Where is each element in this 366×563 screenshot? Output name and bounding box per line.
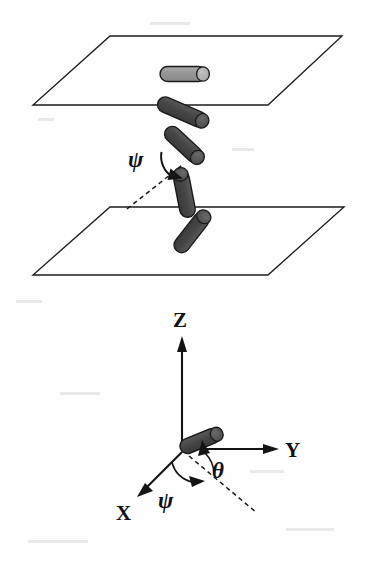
rod-2 xyxy=(155,94,211,130)
theta-label: θ xyxy=(212,458,224,483)
psi-label-upper: ψ xyxy=(128,147,144,172)
rod-3 xyxy=(161,123,207,168)
axis-z-label: Z xyxy=(173,308,187,332)
psi-label-lower: ψ xyxy=(158,488,174,513)
axis-z-arrowhead xyxy=(177,336,187,352)
rod-orientation-figure: ψ Z Y X θ xyxy=(0,0,366,563)
axis-y-arrowhead xyxy=(263,444,279,454)
psi-arc-lower xyxy=(172,462,192,482)
axis-z: Z xyxy=(173,308,187,446)
psi-arrowhead-lower xyxy=(189,476,205,487)
axis-x-arrowhead xyxy=(137,483,153,497)
axis-y-label: Y xyxy=(285,438,300,462)
axis-x-label: X xyxy=(116,501,131,525)
rod-1-in-upper-plane xyxy=(160,67,209,82)
diagram-root: ψ Z Y X θ xyxy=(0,0,366,563)
